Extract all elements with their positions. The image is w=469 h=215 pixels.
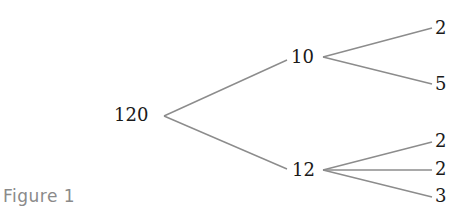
leaf-3-of-12: 3 <box>435 186 446 206</box>
branch-10-to-5 <box>323 57 432 84</box>
leaf-5-of-10: 5 <box>435 74 446 94</box>
node-10: 10 <box>291 47 314 67</box>
leaf-2b-of-12: 2 <box>435 159 446 179</box>
node-12: 12 <box>292 160 315 180</box>
branch-12-to-2a <box>323 142 432 170</box>
figure-caption: Figure 1 <box>3 186 75 206</box>
factor-tree-diagram: 120 10 12 2 5 2 2 3 Figure 1 <box>0 0 469 215</box>
leaf-2a-of-12: 2 <box>435 131 446 151</box>
leaf-2-of-10: 2 <box>435 18 446 38</box>
branch-10-to-2 <box>323 28 432 57</box>
branch-120-to-10 <box>164 60 287 116</box>
node-root-120: 120 <box>114 105 148 125</box>
branch-12-to-3 <box>323 170 432 197</box>
branch-120-to-12 <box>164 116 287 169</box>
tree-branches <box>0 0 469 215</box>
